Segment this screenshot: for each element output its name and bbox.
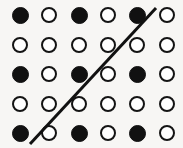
open-dot [71,96,87,112]
filled-dot [71,66,88,83]
filled-dot [129,125,146,142]
filled-dot [12,125,29,142]
filled-dot [129,7,146,24]
open-dot [159,66,175,82]
open-dot [159,96,175,112]
open-dot [12,37,28,53]
open-dot [71,37,87,53]
filled-dot [71,125,88,142]
open-dot [100,125,116,141]
open-dot [41,7,57,23]
open-dot [129,96,145,112]
open-dot [100,66,116,82]
open-dot [41,37,57,53]
filled-dot [71,7,88,24]
open-dot [159,125,175,141]
filled-dot [12,66,29,83]
open-dot [100,96,116,112]
open-dot [159,37,175,53]
open-dot [100,7,116,23]
open-dot [41,125,57,141]
open-dot [129,37,145,53]
lattice-dot-layer [0,0,183,148]
open-dot [12,96,28,112]
open-dot [159,7,175,23]
filled-dot [12,7,29,24]
open-dot [41,96,57,112]
open-dot [41,66,57,82]
dot-lattice-figure [0,0,183,148]
filled-dot [129,66,146,83]
open-dot [100,37,116,53]
